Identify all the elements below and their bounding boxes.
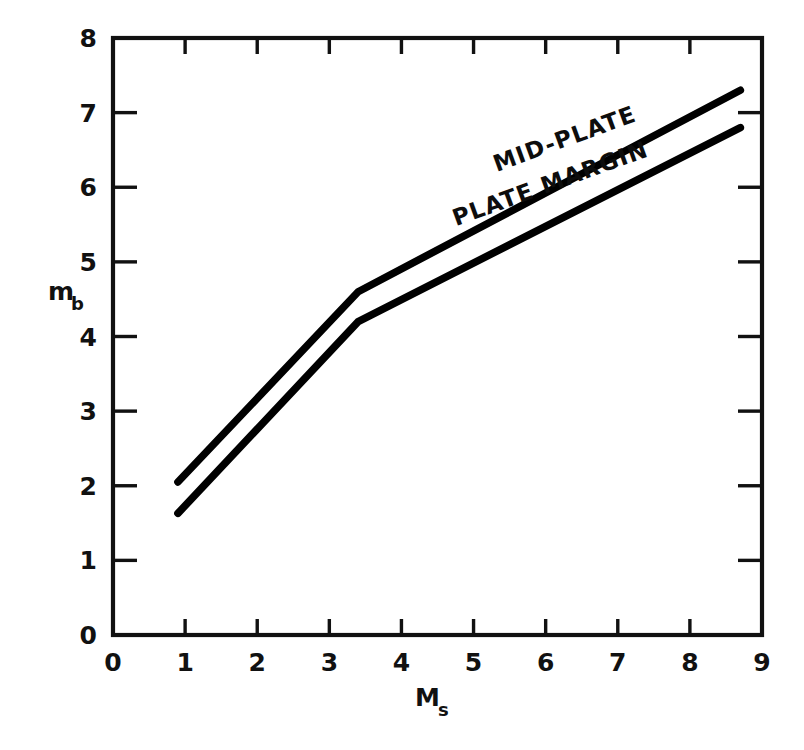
x-tick-label-1: 1 xyxy=(176,648,193,677)
y-tick-label-4: 4 xyxy=(80,323,97,352)
x-axis-title: M s xyxy=(415,683,449,720)
x-tick-label-2: 2 xyxy=(249,648,266,677)
series-lines xyxy=(178,90,740,513)
x-tick-label-7: 7 xyxy=(609,648,626,677)
y-tick-label-1: 1 xyxy=(80,546,97,575)
y-tick-label-7: 7 xyxy=(80,99,97,128)
y-axis-ticks-left xyxy=(113,113,137,561)
x-tick-label-8: 8 xyxy=(681,648,698,677)
y-tick-label-0: 0 xyxy=(80,621,97,650)
y-axis-ticks-right xyxy=(738,113,762,561)
y-tick-label-5: 5 xyxy=(80,248,97,277)
x-tick-label-9: 9 xyxy=(753,648,770,677)
x-axis-ticks-top xyxy=(185,38,690,54)
y-tick-label-2: 2 xyxy=(80,472,97,501)
chart-svg: 0123456789 012345678 m b M s MID-PLATEPL… xyxy=(0,0,804,750)
y-axis-title-subscript: b xyxy=(71,293,84,314)
x-axis-title-base: M xyxy=(415,683,440,712)
x-axis-title-subscript: s xyxy=(438,699,449,720)
x-tick-label-4: 4 xyxy=(393,648,410,677)
y-tick-label-3: 3 xyxy=(80,397,97,426)
x-tick-label-6: 6 xyxy=(537,648,554,677)
series-inline-labels: MID-PLATEPLATE MARGIN xyxy=(449,101,652,231)
x-axis-tick-labels: 0123456789 xyxy=(104,648,770,677)
figure-container: 0123456789 012345678 m b M s MID-PLATEPL… xyxy=(0,0,804,750)
y-axis-title: m b xyxy=(48,277,84,314)
x-tick-label-0: 0 xyxy=(104,648,121,677)
y-axis-tick-labels: 012345678 xyxy=(80,24,97,650)
series-line-plate-margin xyxy=(178,128,740,514)
y-tick-label-6: 6 xyxy=(80,173,97,202)
x-tick-label-3: 3 xyxy=(321,648,338,677)
x-axis-ticks-bottom xyxy=(185,619,690,635)
x-tick-label-5: 5 xyxy=(465,648,482,677)
y-tick-label-8: 8 xyxy=(80,24,97,53)
